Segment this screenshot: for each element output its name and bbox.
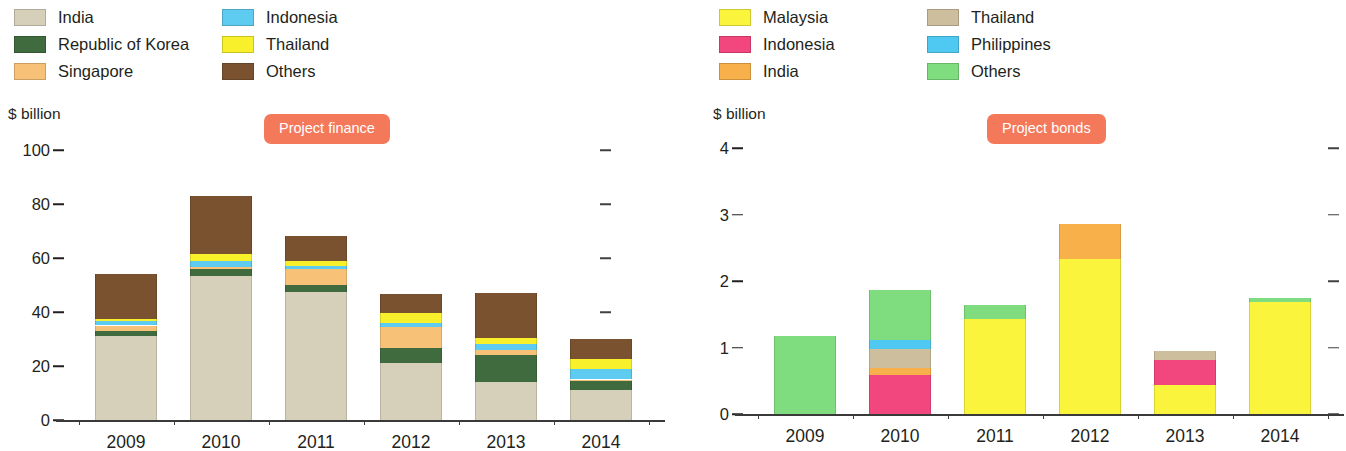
y-axis-tick-label: 2	[685, 272, 729, 291]
x-axis-label-2012: 2012	[371, 432, 451, 451]
bar-segment-others[interactable]	[475, 293, 537, 338]
bar-segment-republic-of-korea[interactable]	[475, 355, 537, 382]
x-axis-tick-mark	[554, 420, 556, 425]
y-axis-tick-label: 40	[6, 303, 50, 322]
y-axis-tick-mark	[732, 214, 743, 216]
y-axis-tick-label: 20	[6, 357, 50, 376]
y-axis-tick-label: 60	[6, 249, 50, 268]
bar-segment-indonesia[interactable]	[380, 323, 442, 327]
bar-segment-singapore[interactable]	[95, 326, 157, 331]
x-axis-label-2014: 2014	[561, 432, 641, 451]
bar-segment-thailand[interactable]	[190, 254, 252, 261]
bar-segment-thailand[interactable]	[380, 313, 442, 322]
bar-segment-indonesia[interactable]	[570, 369, 632, 380]
bar-segment-others[interactable]	[95, 274, 157, 319]
bar-2011[interactable]	[964, 148, 1026, 414]
bar-2009[interactable]	[95, 150, 157, 420]
x-axis-tick-mark	[459, 420, 461, 425]
bar-segment-thailand[interactable]	[1154, 351, 1216, 360]
bar-segment-indonesia[interactable]	[285, 266, 347, 269]
x-axis-label-2014: 2014	[1240, 426, 1320, 447]
y-axis-tick-mark	[732, 280, 743, 282]
bar-segment-thailand[interactable]	[285, 261, 347, 266]
x-axis-tick-mark	[948, 414, 950, 419]
bar-segment-indonesia[interactable]	[190, 261, 252, 268]
bar-segment-malaysia[interactable]	[1154, 385, 1216, 414]
project-finance-panel: IndiaRepublic of KoreaSingapore Indonesi…	[0, 0, 673, 451]
x-axis-tick-mark	[853, 414, 855, 419]
x-axis-tick-mark	[269, 420, 271, 425]
bar-2011[interactable]	[285, 150, 347, 420]
bar-segment-india[interactable]	[95, 336, 157, 420]
bar-segment-singapore[interactable]	[285, 269, 347, 285]
bar-2012[interactable]	[380, 150, 442, 420]
bar-2014[interactable]	[570, 150, 632, 420]
bar-segment-india[interactable]	[1059, 224, 1121, 259]
y-axis-tick-mark-right	[1328, 214, 1339, 216]
bar-segment-republic-of-korea[interactable]	[380, 348, 442, 363]
bar-segment-indonesia[interactable]	[95, 321, 157, 325]
bar-segment-others[interactable]	[774, 336, 836, 414]
bar-segment-thailand[interactable]	[869, 349, 931, 368]
y-axis-tick-label: 80	[6, 195, 50, 214]
bar-segment-republic-of-korea[interactable]	[570, 381, 632, 390]
y-axis-tick-label: 0	[6, 411, 50, 430]
x-axis-label-2013: 2013	[466, 432, 546, 451]
bar-segment-republic-of-korea[interactable]	[285, 285, 347, 292]
bar-segment-indonesia[interactable]	[475, 344, 537, 349]
x-axis-label-2011: 2011	[276, 432, 356, 451]
x-axis-label-2012: 2012	[1050, 426, 1130, 447]
bar-2014[interactable]	[1249, 148, 1311, 414]
bar-segment-philippines[interactable]	[869, 340, 931, 349]
y-axis-tick-mark	[732, 147, 743, 149]
bar-segment-indonesia[interactable]	[1154, 360, 1216, 385]
bar-segment-others[interactable]	[570, 339, 632, 359]
bar-segment-malaysia[interactable]	[1249, 302, 1311, 414]
bar-segment-india[interactable]	[380, 363, 442, 420]
bar-segment-singapore[interactable]	[380, 327, 442, 349]
x-axis-tick-mark	[1233, 414, 1235, 419]
x-axis-tick-mark	[174, 420, 176, 425]
bar-segment-others[interactable]	[964, 305, 1026, 319]
bar-segment-singapore[interactable]	[570, 380, 632, 381]
bar-segment-others[interactable]	[380, 294, 442, 313]
y-axis-tick-label: 1	[685, 338, 729, 357]
bar-segment-india[interactable]	[285, 292, 347, 420]
bar-segment-malaysia[interactable]	[964, 319, 1026, 414]
bar-segment-others[interactable]	[1249, 298, 1311, 302]
bar-segment-india[interactable]	[570, 390, 632, 420]
y-axis-tick-mark	[732, 347, 743, 349]
bar-segment-malaysia[interactable]	[1059, 259, 1121, 414]
y-axis-tick-mark	[53, 257, 64, 259]
y-axis-tick-mark-right	[1328, 147, 1339, 149]
y-axis-tick-mark	[53, 311, 64, 313]
bar-segment-singapore[interactable]	[190, 267, 252, 268]
y-axis-tick-mark-right	[1328, 280, 1339, 282]
bar-segment-singapore[interactable]	[475, 350, 537, 355]
bar-segment-republic-of-korea[interactable]	[95, 331, 157, 336]
bar-segment-india[interactable]	[475, 382, 537, 420]
bar-2010[interactable]	[869, 148, 931, 414]
bar-segment-republic-of-korea[interactable]	[190, 269, 252, 276]
x-axis-tick-mark	[79, 420, 81, 425]
x-axis-tick-mark	[1138, 414, 1140, 419]
bar-segment-thailand[interactable]	[475, 338, 537, 345]
bar-segment-india[interactable]	[869, 368, 931, 375]
bar-segment-thailand[interactable]	[570, 359, 632, 368]
bar-segment-others[interactable]	[869, 290, 931, 340]
bar-2012[interactable]	[1059, 148, 1121, 414]
bar-segment-thailand[interactable]	[95, 319, 157, 322]
project-bonds-panel: MalaysiaIndonesiaIndia ThailandPhilippin…	[673, 0, 1346, 451]
x-axis-line	[735, 414, 1344, 416]
bar-2013[interactable]	[1154, 148, 1216, 414]
bar-segment-others[interactable]	[285, 236, 347, 260]
y-axis-tick-mark	[53, 203, 64, 205]
bar-2010[interactable]	[190, 150, 252, 420]
bar-segment-indonesia[interactable]	[869, 375, 931, 414]
bar-segment-others[interactable]	[190, 196, 252, 254]
bar-2009[interactable]	[774, 148, 836, 414]
bar-segment-india[interactable]	[190, 276, 252, 420]
y-axis-tick-mark	[53, 149, 64, 151]
x-axis-label-2009: 2009	[86, 432, 166, 451]
bar-2013[interactable]	[475, 150, 537, 420]
